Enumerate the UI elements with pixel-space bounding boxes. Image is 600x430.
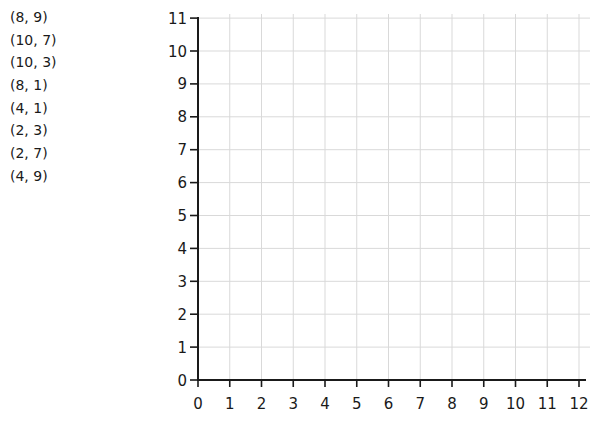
x-tick-label: 2 xyxy=(257,395,267,413)
x-tick-label: 6 xyxy=(384,395,394,413)
y-tick-label: 8 xyxy=(177,108,187,126)
y-tick-label: 9 xyxy=(177,75,187,93)
y-tick-label: 2 xyxy=(177,306,187,324)
x-tick-label: 10 xyxy=(506,395,525,413)
x-tick-label: 3 xyxy=(288,395,298,413)
y-tick-label: 0 xyxy=(177,372,187,390)
y-tick-label: 11 xyxy=(168,10,187,28)
x-tick-label: 5 xyxy=(352,395,362,413)
y-tick-label: 4 xyxy=(177,240,187,258)
y-tick-label: 5 xyxy=(177,207,187,225)
y-tick-label: 3 xyxy=(177,273,187,291)
y-tick-label: 1 xyxy=(177,339,187,357)
x-tick-label: 12 xyxy=(569,395,588,413)
coordinate-grid: 012345678910111201234567891011 xyxy=(0,0,600,430)
x-tick-label: 4 xyxy=(320,395,330,413)
y-tick-label: 6 xyxy=(177,174,187,192)
y-tick-label: 10 xyxy=(168,43,187,61)
x-tick-label: 0 xyxy=(193,395,203,413)
x-tick-label: 1 xyxy=(225,395,235,413)
x-tick-label: 11 xyxy=(538,395,557,413)
x-tick-label: 7 xyxy=(415,395,425,413)
x-tick-label: 9 xyxy=(479,395,489,413)
x-tick-label: 8 xyxy=(447,395,457,413)
y-tick-label: 7 xyxy=(177,141,187,159)
